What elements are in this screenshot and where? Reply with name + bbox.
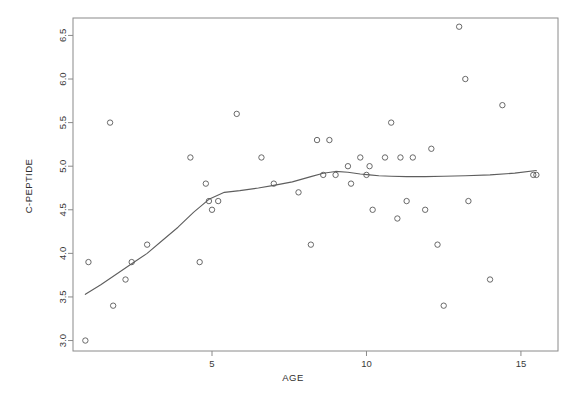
y-tick-label: 6.0 (58, 72, 69, 85)
y-tick-label: 4.5 (58, 203, 69, 216)
x-tick-label: 10 (361, 358, 372, 369)
y-tick-label: 3.0 (58, 334, 69, 347)
y-tick-label: 4.0 (58, 247, 69, 260)
y-tick-label: 5.0 (58, 160, 69, 173)
chart-canvas: 3.03.54.04.55.05.56.06.5 51015 AGE C-PEP… (0, 0, 585, 407)
x-tick-label: 5 (209, 358, 214, 369)
x-axis-title: AGE (282, 372, 303, 383)
y-tick-label: 6.5 (58, 29, 69, 42)
y-tick-label: 3.5 (58, 290, 69, 303)
plot-background (0, 0, 585, 407)
scatter-plot-figure: 3.03.54.04.55.05.56.06.5 51015 AGE C-PEP… (0, 0, 585, 407)
y-axis-title: C-PEPTIDE (23, 159, 34, 213)
x-tick-label: 15 (516, 358, 527, 369)
y-tick-label: 5.5 (58, 116, 69, 129)
